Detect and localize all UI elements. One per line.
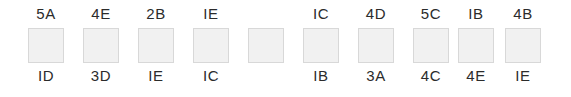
swatch-cell: 5C 4C: [409, 0, 453, 97]
swatch-cell: 4D 3A: [354, 0, 398, 97]
color-swatch[interactable]: [505, 28, 541, 63]
swatch-top-label: IB: [454, 6, 498, 22]
swatch-cell: 2B IE: [134, 0, 178, 97]
swatch-top-label: 2B: [134, 6, 178, 22]
color-swatch[interactable]: [458, 28, 494, 63]
swatch-bottom-label: IB: [299, 68, 343, 84]
swatch-top-label: 4E: [79, 6, 123, 22]
swatch-top-label: 5A: [24, 6, 68, 22]
color-swatch[interactable]: [303, 28, 339, 63]
swatch-bottom-label: IC: [189, 68, 233, 84]
swatch-cell: 4E 3D: [79, 0, 123, 97]
swatch-bottom-label: IE: [134, 68, 178, 84]
swatch-cell: [244, 0, 288, 97]
swatch-bottom-label: 3D: [79, 68, 123, 84]
color-swatch[interactable]: [193, 28, 229, 63]
color-swatch[interactable]: [248, 28, 284, 63]
swatch-bottom-label: ID: [24, 68, 68, 84]
swatch-top-label: 5C: [409, 6, 453, 22]
swatch-top-label: IE: [189, 6, 233, 22]
color-swatch[interactable]: [358, 28, 394, 63]
color-swatch[interactable]: [83, 28, 119, 63]
swatch-top-label: 4D: [354, 6, 398, 22]
swatch-cell: IE IC: [189, 0, 233, 97]
swatch-bottom-label: 3A: [354, 68, 398, 84]
swatch-bottom-label: 4C: [409, 68, 453, 84]
swatch-cell: IB 4E: [454, 0, 498, 97]
swatch-strip: 5A ID 4E 3D 2B IE IE IC IC IB 4D 3A 5C 4…: [0, 0, 571, 97]
swatch-cell: 5A ID: [24, 0, 68, 97]
swatch-bottom-label: IE: [501, 68, 545, 84]
color-swatch[interactable]: [413, 28, 449, 63]
color-swatch[interactable]: [28, 28, 64, 63]
color-swatch[interactable]: [138, 28, 174, 63]
swatch-cell: IC IB: [299, 0, 343, 97]
swatch-top-label: IC: [299, 6, 343, 22]
swatch-top-label: 4B: [501, 6, 545, 22]
swatch-bottom-label: 4E: [454, 68, 498, 84]
swatch-cell: 4B IE: [501, 0, 545, 97]
